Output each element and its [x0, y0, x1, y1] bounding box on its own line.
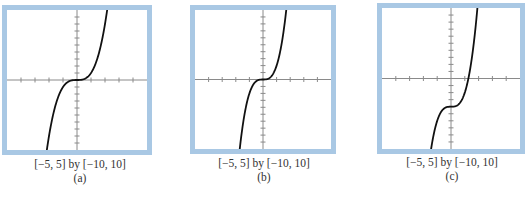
panel-label-c: (c) — [372, 170, 529, 182]
graph-frame-a — [2, 5, 152, 155]
graph-c — [382, 8, 520, 149]
panel-label-b: (b) — [184, 171, 344, 183]
window-caption-a: [−5, 5] by [−10, 10] — [0, 157, 160, 171]
window-caption-c: [−5, 5] by [−10, 10] — [372, 155, 529, 169]
window-caption-b: [−5, 5] by [−10, 10] — [184, 156, 344, 170]
panel-label-a: (a) — [0, 172, 160, 184]
graph-frame-c — [377, 3, 525, 154]
graph-a — [7, 10, 147, 150]
graph-frame-b — [190, 5, 336, 154]
graph-b — [195, 10, 331, 149]
